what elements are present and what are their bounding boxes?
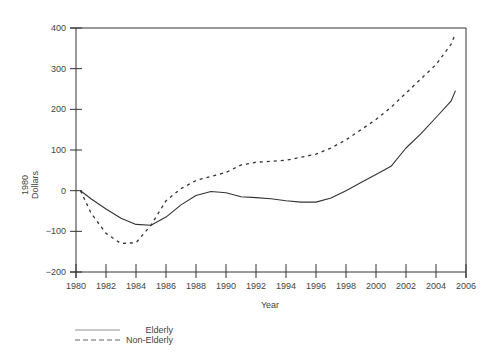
legend-label-non-elderly: Non-Elderly (126, 335, 174, 345)
y-tick-label: 100 (51, 145, 66, 155)
x-tick-label: 1992 (246, 281, 266, 291)
x-axis-title: Year (261, 300, 279, 310)
y-tick-label: 0 (61, 186, 66, 196)
y-tick-label: 300 (51, 64, 66, 74)
y-axis-title-line1: 1980 (20, 175, 30, 195)
legend-label-elderly: Elderly (145, 325, 173, 335)
y-tick-label: 400 (51, 23, 66, 33)
legend: Elderly Non-Elderly (75, 325, 173, 345)
x-tick-label: 2000 (366, 281, 386, 291)
series-non-elderly (81, 33, 456, 243)
x-tick-label: 1982 (96, 281, 116, 291)
x-tick-label: 1988 (186, 281, 206, 291)
series-elderly (81, 91, 456, 226)
y-axis-title-line2: Dollars (30, 171, 40, 200)
x-tick-label: 2006 (456, 281, 476, 291)
x-tick-label: 2002 (396, 281, 416, 291)
x-tick-label: 1980 (66, 281, 86, 291)
x-tick-label: 1996 (306, 281, 326, 291)
x-tick-label: 1986 (156, 281, 176, 291)
x-tick-label: 2004 (426, 281, 446, 291)
y-tick-label: −200 (46, 267, 66, 277)
x-tick-label: 1984 (126, 281, 146, 291)
y-axis-title: 1980 Dollars (20, 171, 40, 200)
series-lines (81, 33, 456, 243)
x-tick-label: 1998 (336, 281, 356, 291)
x-tick-label: 1990 (216, 281, 236, 291)
line-chart: 4003002001000−100−2001980198219841986198… (0, 0, 498, 363)
y-tick-label: 200 (51, 104, 66, 114)
y-tick-label: −100 (46, 226, 66, 236)
x-tick-label: 1994 (276, 281, 296, 291)
axes: 4003002001000−100−2001980198219841986198… (46, 23, 476, 291)
